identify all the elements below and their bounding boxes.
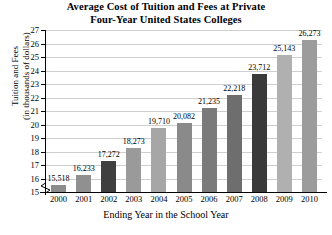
x-axis-title: Ending Year in the School Year xyxy=(0,209,332,221)
bar xyxy=(51,185,66,192)
bar xyxy=(76,175,91,192)
chart-title-line-1: Average Cost of Tuition and Fees at Priv… xyxy=(0,1,332,14)
x-tick-label: 2009 xyxy=(271,195,297,204)
y-tick-label: 25 xyxy=(22,53,39,62)
y-tick-mark xyxy=(41,44,45,45)
y-tick-mark xyxy=(41,57,45,58)
y-tick-label: 17 xyxy=(22,161,39,170)
bar-chart: Average Cost of Tuition and Fees at Priv… xyxy=(0,0,332,235)
axis-break-icon xyxy=(39,179,52,195)
x-axis-line xyxy=(40,192,327,193)
x-tick-label: 2007 xyxy=(221,195,247,204)
bar xyxy=(227,95,242,192)
bar xyxy=(302,40,317,192)
y-tick-mark xyxy=(41,165,45,166)
y-tick-mark xyxy=(41,125,45,126)
x-tick-label: 2004 xyxy=(146,195,172,204)
y-tick-mark xyxy=(41,138,45,139)
y-axis-title-line-1: Tuition and Fees xyxy=(10,6,21,146)
bar xyxy=(252,74,267,192)
bar-value-label: 22,218 xyxy=(218,85,250,93)
y-tick-label: 22 xyxy=(22,94,39,103)
y-tick-mark xyxy=(41,111,45,112)
bar-value-label: 18,273 xyxy=(118,138,150,146)
bar-value-label: 26,273 xyxy=(293,30,325,38)
y-tick-label: 19 xyxy=(22,134,39,143)
x-tick-label: 2003 xyxy=(121,195,147,204)
x-tick-label: 2010 xyxy=(296,195,322,204)
y-tick-label: 21 xyxy=(22,107,39,116)
bar-value-label: 17,272 xyxy=(93,151,125,159)
y-tick-mark xyxy=(41,152,45,153)
x-tick-label: 2006 xyxy=(196,195,222,204)
bar-value-label: 16,233 xyxy=(68,165,100,173)
x-tick-label: 2008 xyxy=(246,195,272,204)
gridline xyxy=(46,30,322,31)
x-tick-label: 2002 xyxy=(96,195,122,204)
bar xyxy=(101,161,116,192)
y-tick-label: 26 xyxy=(22,40,39,49)
bar xyxy=(151,128,166,192)
bar-value-label: 21,235 xyxy=(193,98,225,106)
y-tick-mark xyxy=(41,84,45,85)
y-tick-label: 16 xyxy=(22,175,39,184)
y-tick-mark xyxy=(41,30,45,31)
bar-value-label: 20,082 xyxy=(168,113,200,121)
bar xyxy=(277,55,292,192)
bar-value-label: 25,143 xyxy=(268,45,300,53)
y-tick-label: 27 xyxy=(22,26,39,35)
y-tick-label: 24 xyxy=(22,67,39,76)
y-tick-label: 18 xyxy=(22,148,39,157)
x-tick-label: 2001 xyxy=(71,195,97,204)
x-tick-label: 2005 xyxy=(171,195,197,204)
chart-title: Average Cost of Tuition and Fees at Priv… xyxy=(0,1,332,26)
y-axis-line xyxy=(45,30,46,193)
y-tick-mark xyxy=(41,98,45,99)
chart-title-line-2: Four-Year United States Colleges xyxy=(0,14,332,27)
y-tick-label: 20 xyxy=(22,121,39,130)
bar xyxy=(177,123,192,192)
bar xyxy=(126,148,141,192)
y-tick-mark xyxy=(41,71,45,72)
bar xyxy=(202,108,217,192)
bar-value-label: 23,712 xyxy=(243,64,275,72)
x-tick-label: 2000 xyxy=(46,195,72,204)
y-tick-label: 15 xyxy=(22,188,39,197)
y-tick-label: 23 xyxy=(22,80,39,89)
